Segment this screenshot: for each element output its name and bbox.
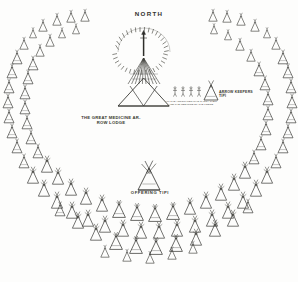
- lodge-structure: [118, 78, 169, 106]
- figures-caption-line2: AND THE MEDICINE OF THE LODGE: [163, 104, 219, 107]
- great-medicine-arrow-lodge: [112, 27, 170, 106]
- camp-circle-diagram: NORTH THE GREAT MEDICINE AR- ROW LODGE O…: [0, 0, 298, 282]
- arrow-keepers-tipi-label: ARROW KEEPERS TIPI: [219, 90, 279, 98]
- arrow-men-caption: ALL THE ARROW MEN WHO CARRY THEM AND THE…: [163, 101, 219, 107]
- arrow-men-figures: [173, 87, 201, 97]
- offering-tipi: [138, 161, 160, 190]
- lodge-pole-bundle: [128, 58, 160, 84]
- offering-tipi-label: OFFERING TIPI: [108, 191, 192, 196]
- south-band-tipis: [55, 199, 253, 264]
- center-medicine-arrow: [140, 30, 147, 56]
- lodge-caption-line2: ROW LODGE: [52, 121, 170, 126]
- north-direction-label: NORTH: [0, 10, 298, 17]
- radiating-feather-arc: [112, 27, 170, 75]
- arrow-keeper-label-line2: TIPI: [219, 94, 279, 98]
- diagram-canvas: [0, 0, 298, 282]
- lodge-caption: THE GREAT MEDICINE AR- ROW LODGE: [52, 116, 170, 126]
